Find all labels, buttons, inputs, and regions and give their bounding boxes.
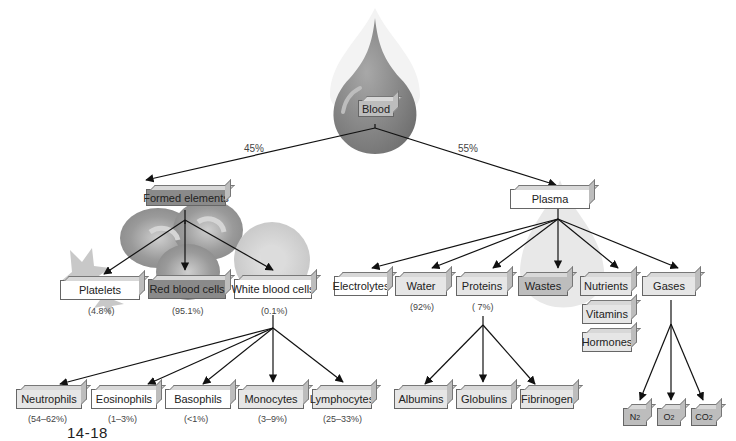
gas-subscript: 2 xyxy=(709,414,713,421)
node-label: Globulins xyxy=(461,393,507,405)
node-nutrients: Nutrients xyxy=(580,276,632,296)
node-albumins: Albumins xyxy=(394,389,448,409)
node-eosinophils: Eosinophils xyxy=(91,389,157,409)
node-globulins: Globulins xyxy=(456,389,512,409)
node-label: Plasma xyxy=(532,193,569,205)
proteins-percentage: ( 7%) xyxy=(472,302,494,312)
node-label: Fibrinogen xyxy=(521,393,573,405)
node-hormones: Hormones xyxy=(582,332,632,352)
node-label: Blood xyxy=(362,103,390,115)
node-label: Wastes xyxy=(525,280,561,292)
plasma-percentage: 55% xyxy=(458,143,478,154)
eosinophils-percentage: (1–3%) xyxy=(108,414,137,424)
node-white-blood-cells: White blood cells xyxy=(234,279,312,299)
neutrophils-percentage: (54–62%) xyxy=(28,414,67,424)
gas-subscript: 2 xyxy=(636,414,640,421)
red-blood-cells-percentage: (95.1%) xyxy=(172,306,204,316)
node-label: White blood cells xyxy=(231,283,314,295)
blood-drop-icon xyxy=(334,18,417,154)
gas-symbol: O xyxy=(664,412,671,422)
node-basophils: Basophils xyxy=(165,389,231,409)
node-formed-elements: Formed elements xyxy=(146,189,226,206)
node-oxygen: O2 xyxy=(657,408,681,426)
node-platelets: Platelets xyxy=(60,280,140,300)
node-proteins: Proteins xyxy=(456,276,508,296)
node-electrolytes: Electrolytes xyxy=(334,276,388,296)
basophils-percentage: (<1%) xyxy=(184,414,208,424)
formed-elements-percentage: 45% xyxy=(244,143,264,154)
gas-symbol: CO xyxy=(695,412,709,422)
monocytes-percentage: (3–9%) xyxy=(258,414,287,424)
node-blood: Blood xyxy=(358,100,394,117)
lymphocytes-percentage: (25–33%) xyxy=(323,414,362,424)
node-label: Albumins xyxy=(398,393,443,405)
node-fibrinogen: Fibrinogen xyxy=(520,389,574,409)
node-red-blood-cells: Red blood cells xyxy=(148,279,226,299)
node-label: Nutrients xyxy=(584,280,628,292)
platelets-percentage: (4.8%) xyxy=(88,306,115,316)
node-label: Hormones xyxy=(582,336,633,348)
node-label: Platelets xyxy=(79,284,121,296)
node-neutrophils: Neutrophils xyxy=(16,389,82,409)
node-vitamins: Vitamins xyxy=(582,304,632,324)
node-label: Eosinophils xyxy=(96,393,152,405)
gas-subscript: 2 xyxy=(671,414,675,421)
node-label: Basophils xyxy=(174,393,222,405)
node-label: Monocytes xyxy=(244,393,297,405)
node-plasma: Plasma xyxy=(510,189,590,209)
node-lymphocytes: Lymphocytes xyxy=(312,389,372,409)
water-percentage: (92%) xyxy=(410,302,434,312)
node-water: Water xyxy=(395,276,447,296)
white-blood-cells-percentage: (0.1%) xyxy=(261,306,288,316)
node-label: Proteins xyxy=(462,280,502,292)
node-label: Electrolytes xyxy=(333,280,390,292)
node-label: Neutrophils xyxy=(21,393,77,405)
node-gases: Gases xyxy=(642,276,696,296)
node-monocytes: Monocytes xyxy=(238,389,304,409)
node-label: Formed elements xyxy=(143,192,229,204)
node-label: Vitamins xyxy=(586,308,628,320)
node-carbon-dioxide: CO2 xyxy=(691,408,717,426)
node-label: Lymphocytes xyxy=(310,393,374,405)
node-label: Water xyxy=(407,280,436,292)
node-nitrogen: N2 xyxy=(623,408,647,426)
node-wastes: Wastes xyxy=(518,276,568,296)
node-label: Gases xyxy=(653,280,685,292)
node-label: Red blood cells xyxy=(149,283,224,295)
figure-number: 14-18 xyxy=(67,424,108,441)
